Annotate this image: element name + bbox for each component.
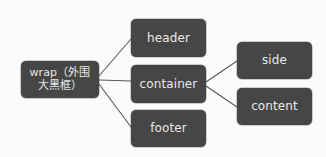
- edge-container-to-side: [206, 61, 237, 82]
- node-container[interactable]: container: [131, 65, 206, 103]
- node-header-label: header: [143, 31, 194, 45]
- node-footer[interactable]: footer: [131, 110, 206, 147]
- node-wrap-label: wrap（外围 大黑框）: [26, 67, 95, 93]
- edge-wrap-to-container: [99, 80, 131, 81]
- node-header[interactable]: header: [131, 19, 206, 57]
- node-side-label: side: [258, 53, 291, 67]
- edge-container-to-content: [206, 86, 237, 107]
- node-side[interactable]: side: [237, 42, 312, 79]
- node-content-label: content: [247, 99, 302, 113]
- node-wrap[interactable]: wrap（外围 大黑框）: [21, 61, 99, 98]
- node-content[interactable]: content: [237, 88, 312, 125]
- edge-wrap-to-header: [99, 39, 131, 76]
- node-footer-label: footer: [146, 121, 191, 135]
- diagram-canvas: wrap（外围 大黑框） header container footer sid…: [0, 0, 326, 157]
- node-container-label: container: [136, 77, 202, 91]
- edge-wrap-to-footer: [99, 84, 131, 127]
